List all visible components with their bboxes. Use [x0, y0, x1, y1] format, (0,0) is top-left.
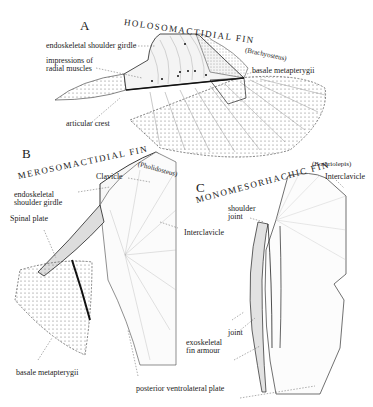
label-articular-crest: articular crest — [66, 119, 110, 128]
articular-lobe — [55, 74, 126, 100]
panel-a-drawing — [55, 34, 326, 157]
label-interclavicle-b: Interclavicle — [184, 228, 224, 237]
panel-b-drawing — [15, 152, 178, 376]
panel-a-letter: A — [80, 18, 89, 34]
label-spinal-plate: Spinal plate — [10, 214, 48, 223]
plate-c — [265, 173, 346, 394]
label-shoulder-girdle-a: endoskeletal shoulder girdle — [46, 41, 136, 50]
label-clavicle-b: Clavicle — [96, 172, 123, 181]
panel-b-letter: B — [22, 146, 31, 162]
label-interclavicle-c: Interclavicle — [325, 172, 365, 181]
label-basale-a: basale metapterygii — [252, 66, 314, 75]
label-posterior-ventrolateral: posterior ventrolateral plate — [136, 384, 224, 393]
fin-web-a — [130, 76, 326, 157]
label-girdle-b-2: shoulder girdle — [14, 198, 62, 207]
fin-web-b — [15, 261, 92, 355]
label-shoulder-joint-2: joint — [228, 212, 243, 221]
label-armour-2: fin armour — [186, 346, 220, 355]
panel-c-taxon: (Bothriolepis) — [312, 160, 351, 169]
label-basale-b: basale metapterygii — [16, 368, 78, 377]
label-joint: joint — [228, 328, 243, 337]
label-impressions-2: radial muscles — [46, 64, 92, 73]
